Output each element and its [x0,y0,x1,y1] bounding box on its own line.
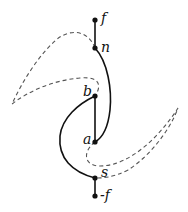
node-s-label: s [101,165,108,179]
node-negf-label: -f [100,188,110,202]
node-n-dot [92,45,97,50]
diagram-canvas: f n b a s -f [0,0,188,212]
node-s-dot [92,175,97,180]
node-n-label: n [101,40,110,54]
node-f-dot [92,17,97,22]
node-negf-dot [92,193,97,198]
node-f-label: f [101,11,106,25]
node-b-dot [92,93,97,98]
node-a-dot [92,139,97,144]
node-a-label: a [83,132,91,146]
node-b-label: b [83,84,92,98]
diagram-svg [0,0,188,212]
